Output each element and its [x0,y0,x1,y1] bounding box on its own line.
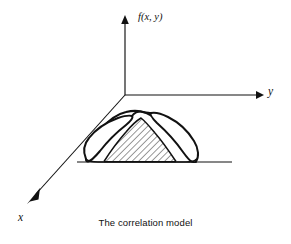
y-axis-label: y [268,86,273,98]
correlation-model-diagram [0,0,291,244]
x-axis [27,95,125,204]
figure-container: f(x, y) y x The correlation model [0,0,291,244]
y-axis [125,91,264,99]
arrow-up-icon [121,15,129,24]
arrow-right-icon [256,91,264,99]
f-axis [121,15,129,95]
figure-caption: The correlation model [0,218,291,228]
surface-crest [132,111,151,116]
x-axis-line [36,95,125,194]
arrow-down-left-icon [27,188,40,204]
f-axis-label: f(x, y) [138,12,162,23]
